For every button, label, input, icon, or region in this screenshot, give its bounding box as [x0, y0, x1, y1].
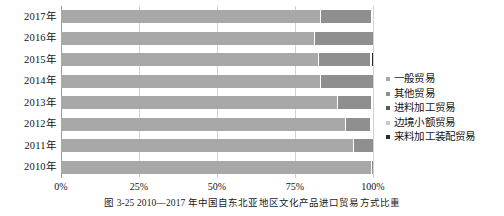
- legend-item-label: 进料加工贸易: [394, 103, 455, 114]
- legend-swatch-icon: [386, 135, 390, 139]
- bar-segment: [61, 10, 320, 23]
- legend-swatch-icon: [386, 106, 390, 110]
- x-tick-label: 50%: [208, 182, 226, 192]
- bar-row-label: 2014年: [0, 76, 61, 87]
- bar-track: [61, 118, 373, 131]
- bar-track: [61, 161, 373, 174]
- bar-segment: [345, 118, 370, 131]
- x-tick-label: 0%: [54, 182, 67, 192]
- bar-segment: [372, 96, 373, 109]
- bar-segment: [371, 161, 373, 174]
- bar-track: [61, 96, 373, 109]
- legend-item[interactable]: 边境小额贸易: [386, 116, 504, 131]
- bar-row-label: 2015年: [0, 55, 61, 66]
- bar-track: [61, 10, 373, 23]
- bar-row-label: 2011年: [0, 141, 61, 152]
- bar-row: 2012年: [0, 114, 380, 136]
- bar-segment: [61, 32, 314, 45]
- x-tick-label: 100%: [361, 182, 384, 192]
- bar-segment: [318, 53, 369, 66]
- bar-segment: [61, 161, 371, 174]
- bar-row-label: 2016年: [0, 33, 61, 44]
- bar-segment: [61, 118, 345, 131]
- bar-row: 2016年: [0, 28, 380, 50]
- figure-stacked-bar-chart: 2017年2016年2015年2014年2013年2012年2011年2010年…: [0, 0, 504, 216]
- legend-item-label: 其他贸易: [394, 89, 435, 100]
- bar-row: 2010年: [0, 157, 380, 179]
- chart-legend: 一般贸易其他贸易进料加工贸易边境小额贸易来料加工装配贸易: [386, 72, 504, 145]
- legend-swatch-icon: [386, 77, 390, 81]
- bar-row-label: 2013年: [0, 98, 61, 109]
- bar-row: 2015年: [0, 49, 380, 71]
- legend-item-label: 边境小额贸易: [394, 118, 455, 129]
- x-tick-label: 75%: [286, 182, 304, 192]
- bar-segment: [372, 10, 373, 23]
- bar-row: 2013年: [0, 92, 380, 114]
- bar-row-label: 2017年: [0, 12, 61, 23]
- legend-swatch-icon: [386, 121, 390, 125]
- x-axis-tick-labels: 0%25%50%75%100%: [61, 182, 373, 198]
- legend-item-label: 来料加工装配贸易: [394, 132, 476, 143]
- legend-item[interactable]: 进料加工贸易: [386, 101, 504, 116]
- bar-track: [61, 75, 373, 88]
- legend-item[interactable]: 来料加工装配贸易: [386, 130, 504, 145]
- bar-row: 2014年: [0, 71, 380, 93]
- bar-segment: [337, 96, 371, 109]
- figure-caption: 图 3-25 2010—2017 年中国自东北亚地区文化产品进口贸易方式比重: [0, 198, 504, 209]
- bar-track: [61, 53, 373, 66]
- legend-item-label: 一般贸易: [394, 74, 435, 85]
- bar-segment: [61, 139, 353, 152]
- bar-row-label: 2012年: [0, 119, 61, 130]
- x-tick-label: 25%: [130, 182, 148, 192]
- bar-segment: [320, 75, 373, 88]
- bar-segment: [371, 53, 373, 66]
- bar-segment: [372, 118, 373, 131]
- bar-segment: [314, 32, 373, 45]
- bar-segment: [353, 139, 373, 152]
- bar-segment: [61, 96, 337, 109]
- bar-track: [61, 32, 373, 45]
- bar-row-label: 2010年: [0, 162, 61, 173]
- bar-row: 2011年: [0, 135, 380, 157]
- legend-item[interactable]: 一般贸易: [386, 72, 504, 87]
- legend-swatch-icon: [386, 92, 390, 96]
- bar-rows: 2017年2016年2015年2014年2013年2012年2011年2010年: [0, 6, 380, 178]
- bar-segment: [320, 10, 371, 23]
- bar-segment: [61, 75, 320, 88]
- bar-row: 2017年: [0, 6, 380, 28]
- bar-segment: [61, 53, 318, 66]
- legend-item[interactable]: 其他贸易: [386, 87, 504, 102]
- bar-track: [61, 139, 373, 152]
